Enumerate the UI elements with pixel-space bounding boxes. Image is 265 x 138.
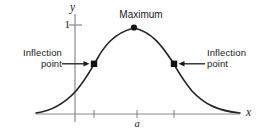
x-tick-label-a: a [129, 118, 145, 130]
maximum-label: Maximum [104, 9, 178, 20]
inflection-left-label: Inflection point [0, 48, 62, 69]
y-tick-label-one: 1 [58, 18, 70, 30]
inflection-point-bell-curve-figure: Inflection point Inflection point Maximu… [0, 0, 265, 138]
y-axis-label: y [70, 1, 75, 14]
maximum-point-marker [131, 24, 137, 30]
x-axis-label: x [246, 106, 251, 119]
bell-curve-path [36, 28, 240, 113]
arrow-to-inflection-left-icon [62, 61, 90, 66]
arrow-to-inflection-right-icon [179, 61, 206, 66]
inflection-left-marker [91, 61, 97, 67]
inflection-right-label: Inflection point [207, 48, 265, 69]
inflection-right-marker [171, 61, 177, 67]
